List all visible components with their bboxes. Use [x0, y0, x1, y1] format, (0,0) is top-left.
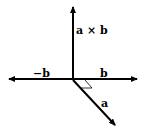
cross-product-label: a × b [76, 25, 108, 36]
neg-b-label: −b [33, 68, 50, 79]
a-arrow [73, 80, 115, 125]
right-angle-marker [80, 80, 92, 88]
vector-axes [0, 0, 146, 137]
b-label: b [100, 68, 108, 79]
a-label: a [101, 98, 108, 109]
cross-product-diagram: a × b −b b a [0, 0, 146, 137]
